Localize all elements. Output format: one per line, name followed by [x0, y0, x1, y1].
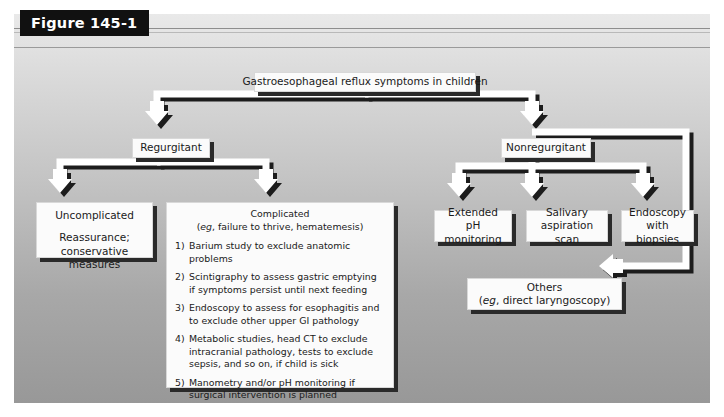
edge-root-nonregurgitant — [365, 94, 532, 110]
complicated-item-list: Barium study to exclude anatomic problem… — [175, 240, 385, 408]
arrowhead-extended — [447, 173, 471, 197]
node-regurgitant-label: Regurgitant — [140, 141, 202, 154]
node-endoscopy-line2: with biopsies — [627, 219, 688, 246]
node-uncomplicated-line1: Reassurance; — [59, 231, 130, 244]
edge-nonregurgitant-endoscopy — [532, 166, 643, 182]
figure-title-banner: Figure 145-1 — [20, 10, 149, 36]
node-others-title: Others — [527, 281, 562, 294]
others-rest: , direct laryngoscopy) — [496, 294, 610, 306]
arrowhead-salivary — [520, 173, 544, 197]
node-salivary-aspiration-scan: Salivary aspiration scan — [526, 210, 608, 242]
figure-container: Gastroesophageal reflux symptoms in chil… — [0, 0, 724, 417]
node-complicated-subtitle: (eg, failure to thrive, hematemesis) — [175, 221, 385, 234]
node-root: Gastroesophageal reflux symptoms in chil… — [254, 72, 476, 92]
node-uncomplicated-line2: conservative measures — [42, 245, 147, 272]
node-others-subtitle: (eg, direct laryngoscopy) — [479, 294, 611, 307]
node-extended-line2: pH monitoring — [440, 219, 506, 246]
node-extended-ph-monitoring: Extended pH monitoring — [434, 210, 512, 242]
node-complicated-header: Complicated (eg, failure to thrive, hema… — [175, 208, 385, 233]
list-item: Scintigraphy to assess gastric emptying … — [175, 271, 385, 296]
list-item: Metabolic studies, head CT to exclude in… — [175, 333, 385, 371]
node-salivary-line2: aspiration scan — [532, 219, 602, 246]
node-endoscopy-line1: Endoscopy — [629, 206, 686, 219]
node-uncomplicated: Uncomplicated Reassurance; conservative … — [36, 202, 153, 258]
list-item: Barium study to exclude anatomic problem… — [175, 240, 385, 265]
arrowhead-endoscopy — [631, 173, 655, 197]
arrowhead-nonregurgitant — [520, 101, 544, 125]
node-complicated-title: Complicated — [175, 208, 385, 221]
edge-regurgitant-complicated — [157, 162, 266, 178]
panel-rule-third — [14, 47, 710, 48]
node-root-label: Gastroesophageal reflux symptoms in chil… — [242, 75, 487, 88]
node-regurgitant: Regurgitant — [132, 138, 210, 158]
node-nonregurgitant-label: Nonregurgitant — [506, 141, 586, 154]
node-complicated: Complicated (eg, failure to thrive, hema… — [166, 202, 394, 388]
list-item: Endoscopy to assess for esophagitis and … — [175, 302, 385, 327]
node-salivary-line1: Salivary — [546, 206, 588, 219]
subtitle-rest: , failure to thrive, hematemesis) — [212, 221, 363, 232]
node-uncomplicated-title: Uncomplicated — [55, 209, 134, 222]
figure-panel: Gastroesophageal reflux symptoms in chil… — [14, 14, 710, 403]
node-others: Others (eg, direct laryngoscopy) — [467, 278, 622, 310]
figure-title-label: Figure 145-1 — [31, 15, 137, 31]
node-endoscopy-with-biopsies: Endoscopy with biopsies — [621, 210, 694, 242]
arrowhead-uncomplicated — [48, 169, 72, 193]
others-eg: eg — [483, 294, 496, 306]
arrowhead-regurgitant — [145, 101, 169, 125]
list-item: Manometry and/or pH monitoring if surgic… — [175, 377, 385, 402]
arrowhead-others — [599, 254, 623, 278]
node-nonregurgitant: Nonregurgitant — [501, 138, 591, 158]
node-extended-line1: Extended — [448, 206, 498, 219]
subtitle-eg: eg — [200, 221, 212, 232]
arrowhead-complicated — [254, 169, 278, 193]
